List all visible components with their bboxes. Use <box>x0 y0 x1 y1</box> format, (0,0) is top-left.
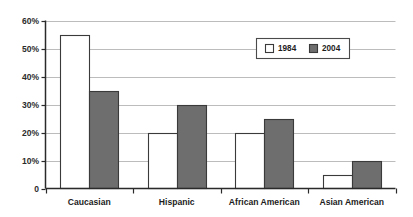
y-tick-label-30: 30% <box>22 100 39 110</box>
bar-caucasian-2004 <box>90 92 119 189</box>
bar-caucasian-1984 <box>61 36 90 189</box>
bar-asian-american-1984 <box>324 176 353 189</box>
x-category-label-hispanic: Hispanic <box>159 197 195 207</box>
chart-legend: 1984 2004 <box>257 39 350 59</box>
bar-hispanic-2004 <box>178 106 207 189</box>
legend-swatch-1984-icon <box>266 45 274 53</box>
legend-swatch-2004-icon <box>310 45 318 53</box>
bar-african-american-2004 <box>265 120 294 189</box>
bar-asian-american-2004 <box>353 162 382 189</box>
y-tick-label-40: 40% <box>22 72 39 82</box>
bar-chart: 60%50%40%30%20%10%0 CaucasianHispanicAfr… <box>0 0 413 217</box>
bar-hispanic-1984 <box>149 134 178 189</box>
x-category-label-asian-american: Asian American <box>319 197 384 207</box>
y-tick-label-20: 20% <box>22 128 39 138</box>
legend-label-2004: 2004 <box>322 44 341 53</box>
y-tick-label-60: 60% <box>22 16 39 26</box>
y-tick-label-10: 10% <box>22 156 39 166</box>
y-tick-label-50: 50% <box>22 44 39 54</box>
x-category-label-african-american: African American <box>229 197 300 207</box>
x-category-label-caucasian: Caucasian <box>68 197 111 207</box>
chart-canvas: 60%50%40%30%20%10%0 CaucasianHispanicAfr… <box>0 0 413 217</box>
legend-label-1984: 1984 <box>278 44 297 53</box>
y-tick-label-0: 0 <box>34 184 39 194</box>
bar-african-american-1984 <box>236 134 265 189</box>
